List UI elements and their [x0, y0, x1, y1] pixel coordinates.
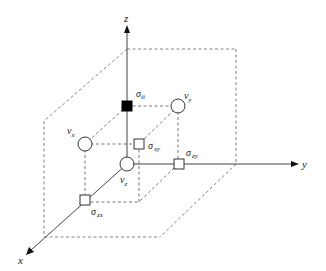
staggered-grid-cell-diagram: z y x σii vy vx σxy σzy vz σzx: [0, 0, 326, 271]
sigma-zy-node: [174, 159, 184, 169]
axes: [26, 25, 299, 255]
v-z-label: vz: [120, 174, 127, 188]
sigma-zy-label: σzy: [186, 147, 199, 160]
v-y-node: [171, 99, 185, 113]
sigma-ii-node: [122, 101, 132, 111]
x-axis-label: x: [17, 254, 23, 266]
y-arrowhead-icon: [291, 161, 299, 167]
sigma-zx-label: σzx: [91, 206, 104, 219]
y-axis-label: y: [301, 158, 307, 170]
v-z-node: [120, 157, 134, 171]
z-arrowhead-icon: [124, 25, 130, 33]
v-y-label: vy: [184, 90, 192, 104]
v-x-node: [78, 137, 92, 151]
v-x-label: vx: [67, 125, 75, 139]
inner-cube-frame: [85, 106, 178, 202]
sigma-ii-label: σii: [136, 88, 145, 101]
sigma-xy-label: σxy: [148, 140, 161, 153]
sigma-xy-node: [134, 139, 144, 149]
x-axis: [30, 164, 127, 251]
z-axis-label: z: [123, 12, 129, 24]
sigma-zx-node: [80, 195, 90, 205]
